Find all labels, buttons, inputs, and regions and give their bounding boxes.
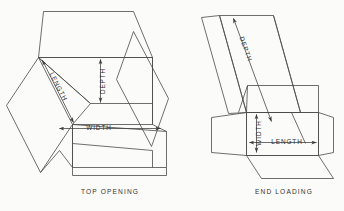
depth-label: DEPTH bbox=[99, 68, 106, 94]
bottom-flap bbox=[247, 156, 334, 179]
front-flap-inner-fold bbox=[73, 144, 153, 168]
depth-label-r: DEPTH bbox=[238, 36, 254, 63]
right-side-flap-r bbox=[319, 113, 334, 156]
rear-left-flap bbox=[202, 16, 247, 114]
front-left-tuck bbox=[41, 151, 73, 173]
left-side-flap-r bbox=[212, 113, 247, 156]
rear-right-edge bbox=[274, 16, 301, 113]
carton-dimension-diagram: LENGTH DEPTH WIDTH TOP OPENING bbox=[0, 0, 344, 211]
rear-panel bbox=[220, 16, 301, 113]
left-carton-figure: LENGTH DEPTH WIDTH TOP OPENING bbox=[7, 12, 169, 196]
left-side-flap bbox=[7, 58, 73, 173]
inner-back-wall-r bbox=[247, 86, 319, 113]
depth-dimension-line-r bbox=[234, 19, 272, 122]
right-carton-figure: DEPTH WIDTH LENGTH END LOADING bbox=[202, 16, 334, 196]
length-label-r: LENGTH bbox=[271, 138, 302, 145]
right-figure-caption: END LOADING bbox=[255, 188, 313, 195]
right-side-flap bbox=[117, 32, 169, 147]
width-label: WIDTH bbox=[86, 124, 111, 131]
left-figure-caption: TOP OPENING bbox=[81, 188, 139, 195]
width-label-r: WIDTH bbox=[255, 120, 262, 145]
